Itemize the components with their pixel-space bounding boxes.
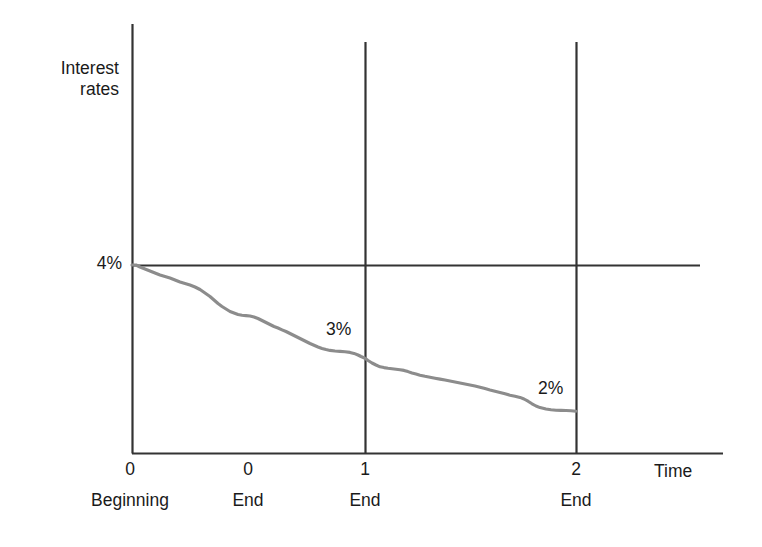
x-tick-sublabel-end-0: End [232,490,263,511]
annotation-2-percent: 2% [538,378,563,399]
x-tick-label-2: 2 [571,459,581,480]
interest-rate-curve [132,265,576,411]
y-axis-label-line-1: Interest [0,58,119,79]
x-tick-sublabel-end-1: End [349,490,380,511]
y-axis-label: Interest rates [0,58,119,99]
x-tick-label-1: 1 [360,459,370,480]
y-tick-label-4-percent: 4% [0,253,122,274]
y-axis-label-line-2: rates [0,79,119,100]
series-group [132,265,576,411]
x-axis-label: Time [654,461,692,482]
annotation-3-percent: 3% [326,319,351,340]
x-tick-label-0b: 0 [243,459,253,480]
interest-rates-chart: Interest rates 4% 3% 2% Time 0 0 1 2 Beg… [0,0,762,547]
x-tick-label-0a: 0 [125,459,135,480]
axes-group [132,24,723,454]
x-tick-sublabel-beginning: Beginning [91,490,169,511]
x-tick-sublabel-end-2: End [560,490,591,511]
